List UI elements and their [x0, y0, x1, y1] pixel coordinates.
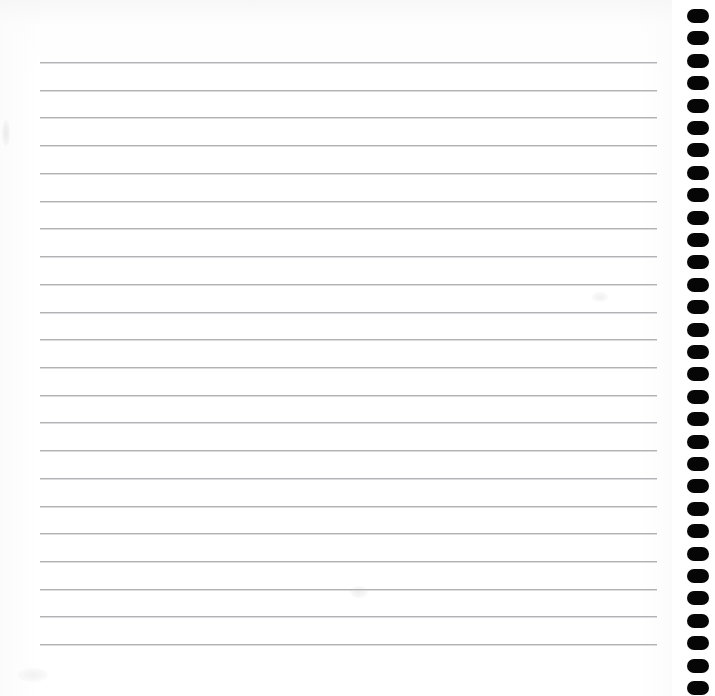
- punch-hole: [687, 547, 709, 561]
- punch-hole: [687, 367, 709, 381]
- punch-hole: [687, 681, 709, 695]
- punch-hole: [687, 9, 709, 23]
- rule-line: [40, 256, 657, 257]
- punch-hole: [687, 166, 709, 180]
- rule-line: [40, 117, 657, 118]
- rule-line: [40, 450, 657, 451]
- rule-line: [40, 506, 657, 507]
- rule-line: [40, 561, 657, 562]
- punch-hole: [687, 54, 709, 68]
- rule-line: [40, 339, 657, 340]
- punch-hole: [687, 255, 709, 269]
- rule-line: [40, 312, 657, 313]
- paper-smudge: [18, 668, 48, 682]
- punch-hole: [687, 143, 709, 157]
- punch-hole: [687, 435, 709, 449]
- punch-hole-column: [672, 0, 715, 696]
- punch-hole: [687, 659, 709, 673]
- rule-line: [40, 533, 657, 534]
- rule-line: [40, 173, 657, 174]
- rule-line: [40, 644, 657, 645]
- punch-hole: [687, 121, 709, 135]
- rule-line: [40, 62, 657, 63]
- punch-hole: [687, 76, 709, 90]
- punch-hole: [687, 457, 709, 471]
- punch-hole: [687, 345, 709, 359]
- punch-hole: [687, 188, 709, 202]
- punch-hole: [687, 300, 709, 314]
- paper-texture: [0, 0, 672, 696]
- punch-hole: [687, 211, 709, 225]
- rule-line: [40, 395, 657, 396]
- punch-hole: [687, 99, 709, 113]
- paper-smudge: [592, 292, 608, 302]
- rule-line: [40, 589, 657, 590]
- punch-hole: [687, 412, 709, 426]
- rule-line: [40, 201, 657, 202]
- punch-hole: [687, 278, 709, 292]
- paper-sheet: [0, 0, 672, 696]
- rule-line: [40, 422, 657, 423]
- punch-hole: [687, 524, 709, 538]
- punch-hole: [687, 479, 709, 493]
- rule-line: [40, 367, 657, 368]
- rule-line: [40, 478, 657, 479]
- punch-hole: [687, 390, 709, 404]
- rule-line: [40, 90, 657, 91]
- punch-hole: [687, 323, 709, 337]
- notebook-page: [0, 0, 715, 696]
- rule-line: [40, 616, 657, 617]
- punch-hole: [687, 502, 709, 516]
- rule-line: [40, 228, 657, 229]
- punch-hole: [687, 233, 709, 247]
- punch-hole: [687, 614, 709, 628]
- punch-hole: [687, 31, 709, 45]
- punch-hole: [687, 569, 709, 583]
- rule-line: [40, 145, 657, 146]
- paper-smudge: [2, 120, 10, 146]
- rule-line: [40, 284, 657, 285]
- punch-hole: [687, 636, 709, 650]
- punch-hole: [687, 591, 709, 605]
